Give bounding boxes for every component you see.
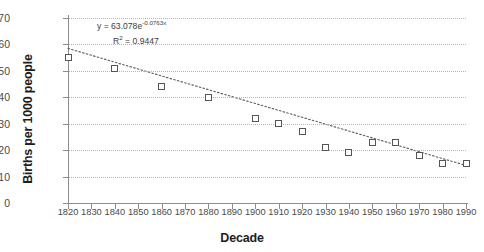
equation-text: y = 63.078e — [97, 21, 142, 31]
y-axis-tick-label: 30 — [0, 119, 10, 130]
y-axis-tick-label: 0 — [0, 198, 10, 209]
data-point-marker — [111, 65, 118, 72]
gridline-horizontal — [68, 97, 466, 98]
y-axis-tick-label: 70 — [0, 13, 10, 24]
y-axis-tick-label: 20 — [0, 145, 10, 156]
data-point-marker — [392, 139, 399, 146]
y-axis-tick — [63, 124, 69, 125]
r-squared-line: R2 = 0.9447 — [113, 32, 166, 47]
data-point-marker — [158, 83, 165, 90]
y-axis-tick — [63, 44, 69, 45]
y-axis-tick-label: 60 — [0, 39, 10, 50]
data-point-marker — [322, 144, 329, 151]
trendline-equation-annotation: y = 63.078e-0.0763x R2 = 0.9447 — [97, 17, 166, 47]
x-axis-tick-label: 1990 — [449, 208, 483, 217]
y-axis-tick-label: 50 — [0, 66, 10, 77]
data-point-marker — [299, 128, 306, 135]
y-axis-tick — [63, 71, 69, 72]
y-axis-tick-label: 10 — [0, 172, 10, 183]
gridline-horizontal — [68, 71, 466, 72]
y-axis-tick — [63, 97, 69, 98]
data-point-marker — [65, 54, 72, 61]
y-axis-tick — [63, 18, 69, 19]
y-axis-tick — [63, 177, 69, 178]
chart-container: Births per 1000 people Decade y = 63.078… — [0, 0, 484, 252]
data-point-marker — [463, 160, 470, 167]
r-value: = 0.9447 — [123, 36, 159, 46]
gridline-horizontal — [68, 124, 466, 125]
data-point-marker — [252, 115, 259, 122]
data-point-marker — [345, 149, 352, 156]
data-point-marker — [275, 120, 282, 127]
equation-exponent: -0.0763x — [142, 19, 166, 26]
y-axis-tick-label: 40 — [0, 92, 10, 103]
data-point-marker — [439, 160, 446, 167]
data-point-marker — [369, 139, 376, 146]
x-axis-line — [66, 203, 468, 204]
data-point-marker — [416, 152, 423, 159]
y-axis-tick — [63, 150, 69, 151]
data-point-marker — [205, 94, 212, 101]
gridline-horizontal — [68, 177, 466, 178]
gridline-horizontal — [68, 150, 466, 151]
x-axis-title: Decade — [0, 231, 484, 245]
y-axis-title: Births per 1000 people — [21, 29, 35, 209]
